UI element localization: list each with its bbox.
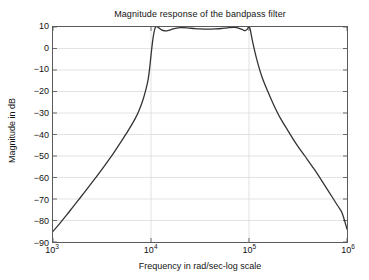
x-axis-tick-label: 106 bbox=[341, 245, 355, 256]
chart-title: Magnitude response of the bandpass filte… bbox=[52, 9, 348, 20]
y-axis-tick-label: 0 bbox=[3, 43, 49, 52]
y-axis-tick-label: −80 bbox=[3, 217, 49, 226]
magnitude-response-curve bbox=[53, 27, 347, 242]
figure: Magnitude response of the bandpass filte… bbox=[0, 0, 369, 280]
x-axis-tick-label: 105 bbox=[242, 245, 256, 256]
y-axis-tick-label: −70 bbox=[3, 195, 49, 204]
x-axis-tick-labels: 103104105106 bbox=[0, 245, 369, 261]
x-axis-tick-label: 104 bbox=[144, 245, 158, 256]
x-axis-label: Frequency in rad/sec-log scale bbox=[52, 261, 348, 272]
y-axis-tick-label: 10 bbox=[3, 22, 49, 31]
x-axis-tick-label: 103 bbox=[45, 245, 59, 256]
plot-area bbox=[52, 26, 348, 243]
y-axis-label: Magnitude in dB bbox=[7, 71, 18, 191]
